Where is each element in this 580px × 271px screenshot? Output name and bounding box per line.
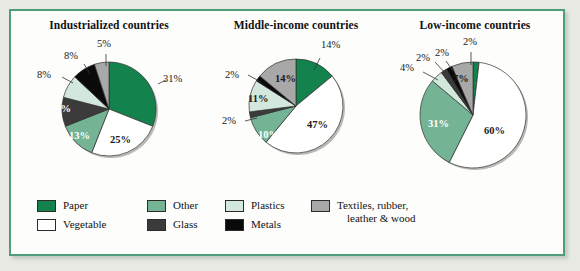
legend-label-paper: Paper bbox=[63, 199, 88, 212]
slice-label-textiles: 7% bbox=[453, 73, 469, 84]
slice-label-glass: 2% bbox=[222, 115, 236, 126]
legend-label-textiles-line2: leather & wood bbox=[347, 212, 415, 225]
legend-label-other: Other bbox=[173, 199, 198, 212]
panel-title: Industrialized countries bbox=[11, 19, 207, 31]
pie-chart-middle-income: 14% 47% 10% 2% 11% 2% 14% bbox=[201, 33, 391, 183]
legend-label-textiles: Textiles, rubber,leather & wood bbox=[337, 199, 415, 225]
slice-label-plastics: 11% bbox=[248, 93, 268, 104]
slice-label-metals: 8% bbox=[64, 50, 78, 61]
legend-label-metals: Metals bbox=[251, 218, 281, 231]
slice-label-textiles: 5% bbox=[97, 38, 111, 49]
panel-title: Middle-income countries bbox=[201, 19, 391, 31]
legend-item-paper: Paper bbox=[37, 199, 88, 212]
slice-label-paper: 31% bbox=[163, 73, 182, 84]
panel-title: Low-income countries bbox=[383, 19, 567, 31]
legend-label-vegetable: Vegetable bbox=[63, 218, 106, 231]
legend-swatch-vegetable bbox=[37, 219, 56, 231]
slice-label-other: 31% bbox=[428, 118, 449, 129]
panel-middle-income: Middle-income countries 14% 47% 10% 2% 1… bbox=[201, 11, 391, 189]
legend-item-glass: Glass bbox=[147, 218, 197, 231]
slice-label-vegetable: 47% bbox=[307, 119, 328, 130]
legend-label-plastics: Plastics bbox=[251, 199, 285, 212]
legend-swatch-other bbox=[147, 200, 166, 212]
figure-frame: Industrialized countries 31% 25% 13% 10% bbox=[9, 9, 565, 256]
slice-label-plastics: 8% bbox=[37, 69, 51, 80]
legend-item-plastics: Plastics bbox=[225, 199, 285, 212]
legend-swatch-textiles bbox=[311, 200, 330, 212]
slice-label-vegetable: 60% bbox=[484, 125, 505, 136]
legend-item-metals: Metals bbox=[225, 218, 281, 231]
pie-svg bbox=[201, 33, 391, 183]
legend-item-vegetable: Vegetable bbox=[37, 218, 106, 231]
pie-svg bbox=[11, 33, 207, 183]
slice-label-textiles: 14% bbox=[275, 73, 296, 84]
legend-item-textiles: Textiles, rubber,leather & wood bbox=[311, 199, 415, 225]
legend-swatch-glass bbox=[147, 219, 166, 231]
slice-label-other: 13% bbox=[69, 130, 90, 141]
legend-swatch-paper bbox=[37, 200, 56, 212]
legend-item-other: Other bbox=[147, 199, 198, 212]
pie-chart-industrialized: 31% 25% 13% 10% 8% 8% 5% bbox=[11, 33, 207, 183]
slice-label-metals: 2% bbox=[225, 69, 239, 80]
slice-label-paper: 14% bbox=[321, 39, 340, 50]
slice-label-glass: 2% bbox=[416, 52, 430, 63]
legend-swatch-plastics bbox=[225, 200, 244, 212]
pie-svg bbox=[383, 33, 567, 188]
slice-label-paper: 2% bbox=[463, 36, 477, 47]
panel-low-income: Low-income countries 2% 60% 31% 4% 2% bbox=[383, 11, 567, 189]
slice-label-plastics: 4% bbox=[400, 62, 414, 73]
slice-label-glass: 10% bbox=[50, 103, 71, 114]
pie-chart-low-income: 2% 60% 31% 4% 2% 2% 7% bbox=[383, 33, 567, 188]
legend: Paper Vegetable Other Glass Plastics Met… bbox=[37, 199, 537, 243]
legend-label-glass: Glass bbox=[173, 218, 197, 231]
slice-label-other: 10% bbox=[258, 129, 279, 140]
panel-industrialized: Industrialized countries 31% 25% 13% 10% bbox=[11, 11, 207, 189]
legend-swatch-metals bbox=[225, 219, 244, 231]
slice-label-vegetable: 25% bbox=[110, 134, 131, 145]
pie-panels: Industrialized countries 31% 25% 13% 10% bbox=[11, 11, 563, 189]
legend-label-textiles-line1: Textiles, rubber, bbox=[337, 199, 408, 211]
slice-label-metals: 2% bbox=[435, 47, 449, 58]
